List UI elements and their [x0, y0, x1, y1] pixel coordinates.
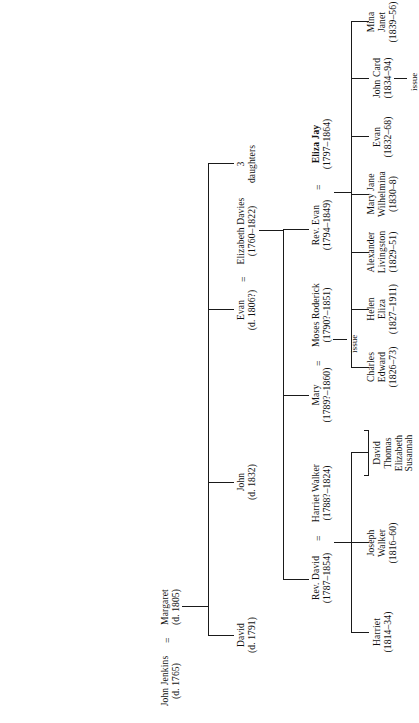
node-elizabeth-davies: Elizabeth Davies (1760–1822) [236, 189, 258, 273]
connector-other-children-bracket [368, 430, 369, 476]
node-joseph-walker-dates: (1816–60) [388, 515, 399, 571]
node-harriet-walker-dates: (1788?–1824) [322, 454, 333, 532]
connector-drop-harriet [351, 632, 369, 633]
node-john-card: John Card (1834–94) [372, 49, 394, 107]
node-other-child-susannah: Susannah [404, 423, 415, 483]
node-charles-edward-dates: (1826–73) [388, 339, 399, 395]
node-mina-janet-dates: (1839–56) [388, 0, 399, 49]
node-elizabeth-davies-dates: (1760–1822) [247, 189, 258, 273]
node-joseph-walker: Joseph Walker (1816–60) [366, 515, 398, 571]
node-eliza-jay: Eliza Jay (1797–1864) [311, 107, 333, 181]
connector-rev-evan-stem [334, 192, 352, 193]
node-mary-jane-wilhelmina-dates: (1830–8) [388, 163, 399, 225]
node-charles-edward: Charles Edward (1826–73) [366, 339, 398, 395]
connector-drop-other-children [351, 452, 369, 453]
connector-drop-john-card [351, 78, 369, 79]
node-mary: Mary (1789?–1860) [311, 367, 333, 423]
node-margaret-dates: (d. 1805) [171, 579, 182, 635]
node-rev-david: Rev. David (1787–1854) [311, 543, 333, 613]
node-harriet-dates: (1814–34) [383, 604, 394, 660]
node-moses-roderick-dates: (1790?–1851) [322, 273, 333, 357]
node-john-jenkins: John Jenkins (d. 1765) [160, 645, 182, 717]
connector-rev-david-children-bar [351, 453, 352, 633]
node-david-dates: (d. 1791) [247, 606, 258, 664]
connector-drop-three-daughters [208, 163, 234, 164]
node-three-daughters: 3 daughters [236, 137, 258, 191]
node-helen-eliza-dates: (1827–1911) [388, 281, 399, 337]
node-alexander-livingston: Alexander Livingston (1829–51) [366, 221, 398, 283]
marriage-symbol-rev-david-harriet: = [314, 536, 324, 541]
node-evan-gen4-dates: (1832–68) [383, 110, 394, 164]
node-mina-janet: Mina Janet (1839–56) [366, 0, 398, 49]
node-three-daughters-label: daughters [247, 137, 258, 191]
connector-drop-john [208, 482, 234, 483]
node-eliza-jay-dates: (1797–1864) [322, 107, 333, 181]
connector-evan-elizabeth-stem [259, 230, 284, 231]
connector-gen1-stem [182, 606, 209, 607]
node-evan-gen2-dates: (d. 1806?) [247, 283, 258, 337]
node-john: John (d. 1832) [236, 453, 258, 511]
marriage-symbol-evan-elizabeth: = [239, 277, 249, 282]
node-moses-roderick: Moses Roderick (1790?–1851) [311, 273, 333, 357]
marriage-symbol-gen1: = [163, 638, 173, 643]
marriage-symbol-rev-evan-eliza: = [314, 185, 324, 190]
node-margaret: Margaret (d. 1805) [160, 579, 182, 635]
node-mary-jane-wilhelmina: Mary Jane Wilhelmina (1830–8) [366, 163, 398, 225]
node-rev-evan-dates: (1794–1849) [322, 193, 333, 257]
node-alexander-livingston-dates: (1829–51) [388, 221, 399, 283]
node-helen-eliza: Helen Eliza (1827–1911) [366, 281, 398, 337]
node-harriet: Harriet (1814–34) [372, 604, 394, 660]
node-john-dates: (d. 1832) [247, 453, 258, 511]
connector-john-card-issue-tick [394, 78, 407, 79]
connector-drop-david [208, 635, 234, 636]
node-evan-gen4: Evan (1832–68) [372, 110, 394, 164]
node-rev-evan: Rev. Evan (1794–1849) [311, 193, 333, 257]
connector-gen2-sibling-bar [208, 163, 209, 636]
connector-gen3-sibling-bar [283, 230, 284, 580]
node-john-card-dates: (1834–94) [383, 49, 394, 107]
node-rev-david-dates: (1787–1854) [322, 543, 333, 613]
connector-drop-rev-david [283, 579, 309, 580]
issue-label-john-card: issue [410, 73, 419, 91]
connector-drop-mary [283, 395, 309, 396]
connector-rev-david-stem [334, 542, 352, 543]
node-evan-gen2: Evan (d. 1806?) [236, 283, 258, 337]
node-harriet-walker: Harriet Walker (1788?–1824) [311, 454, 333, 532]
connector-drop-rev-evan [283, 229, 309, 230]
connector-drop-evan [208, 309, 234, 310]
connector-other-children-bracket-left [364, 475, 369, 476]
connector-drop-evan-gen4 [351, 136, 369, 137]
marriage-symbol-mary-moses: = [314, 361, 324, 366]
node-mary-dates: (1789?–1860) [322, 367, 333, 423]
connector-mary-issue-tick [333, 339, 347, 340]
node-other-children: David Thomas Elizabeth Susannah [372, 423, 415, 483]
connector-other-children-bracket-right [364, 430, 369, 431]
node-john-jenkins-dates: (d. 1765) [171, 645, 182, 717]
node-david: David (d. 1791) [236, 606, 258, 664]
